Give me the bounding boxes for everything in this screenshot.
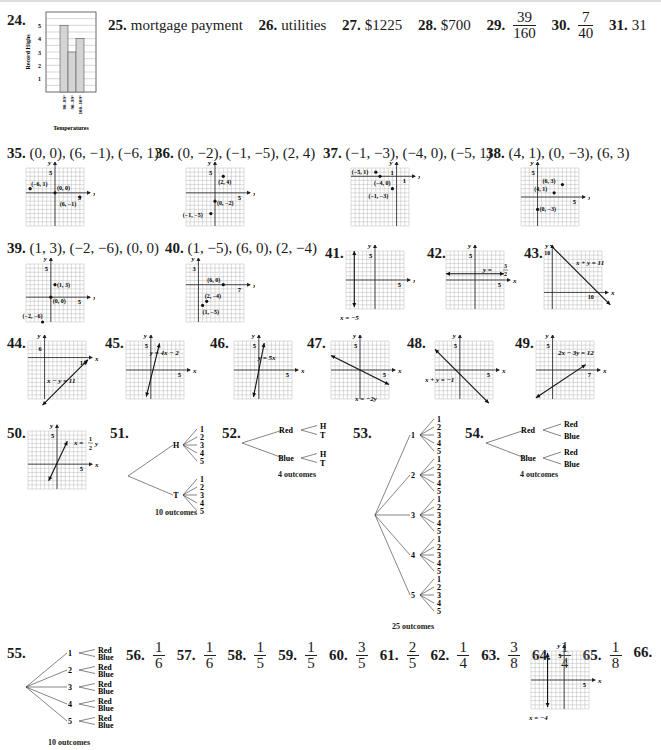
svg-text:y: y (367, 245, 372, 250)
svg-text:5: 5 (49, 169, 53, 176)
tree-branch-label: 1 (411, 431, 415, 440)
svg-text:(4, 1): (4, 1) (534, 186, 547, 193)
tree-leaf-label: Blue (98, 670, 114, 679)
svg-text:5: 5 (78, 298, 82, 305)
chart-plot-area: 1234580–89°90–99°100–109°Record HighsTem… (25, 12, 96, 131)
coordinate-grid: yx55 (234, 335, 305, 399)
graph-38: yx55(6, 3)(4, 1)(0, −3) (515, 162, 590, 237)
tree-branch-label: 5 (68, 717, 72, 726)
graph-66: yx55x = −4 (525, 645, 610, 725)
tree-leaf-label: Blue (98, 721, 114, 730)
fraction: 740 (578, 10, 593, 41)
plotted-point (78, 195, 81, 198)
tree-branch-label: 4 (68, 700, 72, 709)
svg-text:(0, 0): (0, 0) (53, 298, 66, 305)
answer-25: 25.mortgage payment (108, 17, 243, 34)
fraction: 14 (457, 640, 469, 671)
answer-30: 30.740 (552, 10, 594, 41)
graph-41: yx55x = −5 (340, 245, 415, 325)
tree-leaf-label: T (320, 459, 326, 468)
svg-text:(−1, −5): (−1, −5) (183, 212, 203, 219)
equation-label: x = (73, 439, 83, 447)
item-number-47: 47. (307, 335, 326, 352)
equation-label: x + y = −1 (425, 376, 454, 384)
svg-text:(6, 0): (6, 0) (207, 277, 220, 284)
svg-text:(0, −3): (0, −3) (540, 206, 556, 213)
svg-text:x: x (610, 289, 615, 297)
svg-text:5: 5 (253, 342, 257, 349)
coordinate-grid: yx55 (346, 245, 415, 309)
svg-text:y: y (556, 645, 561, 650)
equation-label: x + y = 11 (575, 259, 604, 267)
svg-text:7: 7 (238, 286, 242, 293)
tree-leaf-label: H (320, 422, 327, 431)
graph-42: yx55y = 32 (440, 245, 525, 320)
svg-text:y: y (47, 162, 52, 167)
tree-branch-label: Blue (278, 454, 294, 463)
svg-text:6: 6 (39, 345, 43, 352)
svg-text:5: 5 (178, 371, 182, 378)
svg-text:5: 5 (547, 342, 551, 349)
tree-leaf-label: Blue (98, 704, 114, 713)
equation-label: x − y = 11 (46, 377, 75, 385)
svg-text:x: x (92, 190, 95, 198)
tree-leaf-label: 5 (200, 507, 204, 516)
coordinate-grid: yx55 (331, 335, 402, 399)
svg-text:5: 5 (558, 652, 562, 659)
graphed-line (49, 441, 68, 480)
svg-text:1: 1 (403, 177, 406, 184)
tree-branch-label: Red (521, 426, 535, 435)
item-number-48: 48. (407, 335, 426, 352)
plotted-point (29, 187, 32, 190)
svg-text:5: 5 (469, 252, 473, 259)
caption-54: 4 outcomes (520, 470, 558, 479)
svg-text:x: x (501, 367, 506, 375)
caption-52: 4 outcomes (278, 470, 316, 479)
svg-text:y: y (530, 162, 535, 167)
svg-text:2: 2 (89, 445, 92, 451)
fraction: 35 (356, 640, 368, 671)
svg-text:90–99°: 90–99° (70, 95, 75, 110)
graph-48: yx55x + y = −1 (425, 335, 510, 415)
tree-branch-label: 5 (411, 591, 415, 600)
item-number-46: 46. (210, 335, 229, 352)
svg-text:3: 3 (192, 265, 196, 272)
fraction: 18 (610, 640, 622, 671)
svg-text:5: 5 (383, 371, 387, 378)
svg-text:x: x (587, 194, 590, 202)
svg-text:100–109°: 100–109° (78, 95, 83, 115)
fraction: 38 (508, 640, 520, 671)
svg-text:y: y (545, 335, 550, 340)
svg-text:y: y (452, 335, 457, 340)
svg-text:(1, −5): (1, −5) (203, 309, 219, 316)
plotted-point (553, 191, 556, 194)
answer-60: 60.35 (329, 640, 368, 671)
svg-text:80–89°: 80–89° (62, 95, 67, 110)
svg-text:y: y (49, 423, 54, 430)
tree-leaf-label: Red (564, 448, 578, 457)
svg-text:x: x (417, 173, 420, 181)
coordinate-grid: yx11(−5, 1)(−4, 0)(−1, −3) (351, 162, 420, 226)
svg-text:(6, 3): (6, 3) (542, 178, 555, 185)
svg-text:x: x (92, 294, 95, 302)
tree-leaf-label: Blue (564, 460, 580, 469)
answer-61: 61.25 (380, 640, 419, 671)
answer-37: 37. (−1, −3), (−4, 0), (−5, 1) (323, 145, 492, 162)
svg-text:3: 3 (504, 263, 507, 269)
fraction: 15 (305, 640, 317, 671)
answer-29: 29.39160 (487, 10, 536, 41)
svg-text:14: 14 (80, 359, 87, 366)
answer-59: 59.15 (278, 640, 317, 671)
plotted-point (53, 191, 56, 194)
coordinate-grid: yx55(6, 3)(4, 1)(0, −3) (521, 162, 590, 226)
graph-49: yx752x − 3y = 12 (530, 335, 630, 415)
svg-text:5: 5 (354, 342, 358, 349)
record-highs-chart: 1234580–89°90–99°100–109°Record HighsTem… (20, 10, 110, 135)
plotted-point (205, 300, 208, 303)
svg-text:5: 5 (487, 371, 491, 378)
caption-53: 25 outcomes (392, 622, 434, 631)
svg-text:x: x (597, 677, 602, 685)
answer-26: 26.utilities (259, 17, 327, 34)
svg-text:x: x (602, 367, 607, 375)
svg-text:5: 5 (573, 198, 577, 205)
